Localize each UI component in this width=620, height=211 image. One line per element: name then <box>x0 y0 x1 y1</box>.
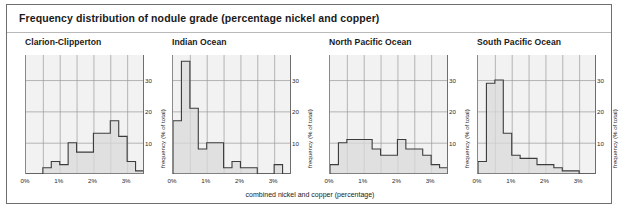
panel-south-pacific-ocean: South Pacific Ocean 102030frequency (% o… <box>477 33 620 204</box>
histogram-plot <box>25 55 143 174</box>
x-axis-tick-label: 1% <box>358 177 367 184</box>
figure-title: Frequency distribution of nodule grade (… <box>19 12 379 24</box>
plot-area: 102030frequency (% of total)0%1%2%3% <box>25 55 177 194</box>
x-axis-tick-label: 2% <box>88 177 97 184</box>
y-axis-title: frequency (% of total) <box>463 109 470 168</box>
x-axis-tick-label: 0% <box>21 177 30 184</box>
y-axis-tick-label: 20 <box>597 108 604 115</box>
histogram-svg <box>26 55 144 174</box>
y-axis-title: frequency (% of total) <box>306 109 313 168</box>
panel-north-pacific-ocean: North Pacific Ocean 102030frequency (% o… <box>329 33 481 204</box>
x-axis-tick-label: 0% <box>473 177 482 184</box>
y-axis-spine <box>143 55 144 174</box>
panel-indian-ocean: Indian Ocean 102030frequency (% of total… <box>172 33 324 204</box>
y-axis-tick-label: 30 <box>145 77 152 84</box>
y-axis-spine <box>447 55 448 174</box>
panel-title: North Pacific Ocean <box>329 37 412 47</box>
y-axis-tick-label: 20 <box>292 108 299 115</box>
y-axis-title: frequency (% of total) <box>159 109 166 168</box>
y-axis-tick-label: 10 <box>145 139 152 146</box>
x-axis-title: combined nickel and copper (percentage) <box>246 191 375 198</box>
histogram-svg <box>330 55 448 174</box>
histogram-plot <box>477 55 595 174</box>
plot-area: 102030frequency (% of total)0%1%2%3% <box>172 55 324 194</box>
histogram-svg <box>478 55 596 174</box>
panel-clarion-clipperton: Clarion-Clipperton 102030frequency (% of… <box>25 33 177 204</box>
y-axis-title: frequency (% of total) <box>611 109 618 168</box>
panel-title: Clarion-Clipperton <box>25 37 101 47</box>
y-axis-tick-label: 30 <box>292 77 299 84</box>
histogram-svg <box>173 55 291 174</box>
x-axis-tick-label: 0% <box>325 177 334 184</box>
y-axis-tick-label: 10 <box>292 139 299 146</box>
x-axis-tick-label: 1% <box>506 177 515 184</box>
x-axis-tick-label: 0% <box>168 177 177 184</box>
figure-container: Frequency distribution of nodule grade (… <box>6 4 612 204</box>
histogram-fill <box>330 140 448 174</box>
y-axis-spine <box>290 55 291 174</box>
x-axis-tick-label: 2% <box>392 177 401 184</box>
histogram-plot <box>329 55 447 174</box>
x-axis-tick-label: 3% <box>426 177 435 184</box>
x-axis-tick-label: 1% <box>54 177 63 184</box>
x-axis-tick-label: 2% <box>540 177 549 184</box>
histogram-plot <box>172 55 290 174</box>
x-axis-tick-label: 2% <box>235 177 244 184</box>
y-axis-tick-label: 10 <box>597 139 604 146</box>
y-axis-spine <box>595 55 596 174</box>
panel-title: Indian Ocean <box>172 37 227 47</box>
panels-row: Clarion-Clipperton 102030frequency (% of… <box>7 33 611 204</box>
y-axis-tick-label: 30 <box>597 77 604 84</box>
y-axis-tick-label: 20 <box>145 108 152 115</box>
x-axis-tick-label: 1% <box>201 177 210 184</box>
panel-title: South Pacific Ocean <box>477 37 561 47</box>
y-axis-tick-label: 10 <box>449 139 456 146</box>
plot-area: 102030frequency (% of total)0%1%2%3% <box>329 55 481 194</box>
x-axis-tick-label: 3% <box>122 177 131 184</box>
x-axis-tick-label: 3% <box>269 177 278 184</box>
y-axis-tick-label: 30 <box>449 77 456 84</box>
plot-area: 102030frequency (% of total)0%1%2%3% <box>477 55 620 194</box>
y-axis-tick-label: 20 <box>449 108 456 115</box>
x-axis-tick-label: 3% <box>574 177 583 184</box>
